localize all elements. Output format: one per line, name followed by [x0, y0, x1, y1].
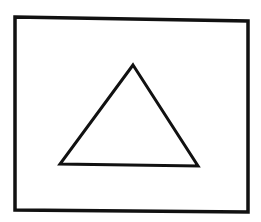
drawing-canvas	[0, 0, 261, 222]
background	[0, 0, 261, 222]
